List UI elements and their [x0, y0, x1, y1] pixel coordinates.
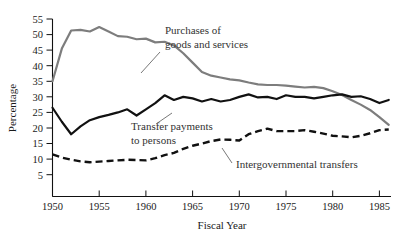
x-tick-label: 1975	[276, 201, 297, 212]
y-axis-tick-labels: 55 50 45 40 35 30 25 20 15 10 5	[33, 14, 44, 181]
y-axis-ticks	[47, 19, 53, 175]
y-tick-label: 30	[33, 92, 44, 103]
y-tick-label: 10	[33, 154, 44, 165]
x-tick-label: 1970	[229, 201, 250, 212]
y-tick-label: 20	[33, 123, 44, 134]
annotation-purchases-line2: goods and services	[165, 38, 248, 50]
y-tick-label: 40	[33, 61, 44, 72]
x-axis-ticks	[53, 191, 380, 197]
series-line-transfer-payments	[53, 94, 389, 134]
annotation-purchases-line1: Purchases of	[165, 24, 221, 36]
line-chart: 55 50 45 40 35 30 25 20 15 10 5 1950 195	[0, 0, 415, 241]
x-tick-label: 1950	[42, 201, 63, 212]
annotation-transfer-payments: Transfer payments to persons	[131, 120, 213, 146]
y-tick-label: 35	[33, 76, 44, 87]
y-tick-label: 5	[38, 170, 43, 181]
y-tick-label: 25	[33, 107, 44, 118]
x-tick-label: 1985	[369, 201, 390, 212]
leader-line-purchases	[141, 52, 160, 73]
y-tick-label: 55	[33, 14, 44, 25]
annotation-intergovernmental: Intergovernmental transfers	[236, 158, 358, 170]
x-tick-label: 1965	[182, 201, 203, 212]
x-axis-title: Fiscal Year	[198, 219, 247, 231]
y-axis-title: Percentage	[6, 84, 18, 132]
annotation-transfer-line2: to persons	[131, 134, 176, 146]
y-tick-label: 50	[33, 29, 44, 40]
annotation-purchases: Purchases of goods and services	[165, 24, 248, 50]
annotation-transfer-line1: Transfer payments	[131, 120, 213, 132]
x-tick-label: 1980	[322, 201, 343, 212]
y-tick-label: 45	[33, 45, 44, 56]
annotation-intergov-line1: Intergovernmental transfers	[236, 158, 358, 170]
leader-line-intergov	[222, 148, 232, 163]
x-tick-label: 1955	[89, 201, 110, 212]
x-tick-label: 1960	[135, 201, 156, 212]
x-axis-tick-labels: 1950 1955 1960 1965 1970 1975 1980 1985	[42, 201, 390, 212]
chart-figure: 55 50 45 40 35 30 25 20 15 10 5 1950 195	[0, 0, 415, 241]
y-tick-label: 15	[33, 138, 44, 149]
